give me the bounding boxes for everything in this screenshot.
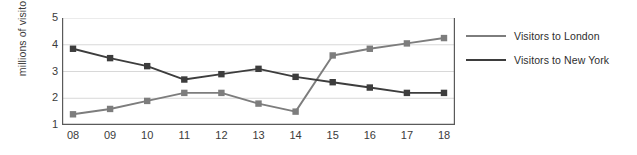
data-point-0-10	[144, 98, 150, 104]
data-point-0-18	[441, 35, 447, 41]
data-point-0-15	[330, 52, 336, 58]
data-point-1-15	[330, 79, 336, 85]
x-tick-label-09: 09	[104, 129, 116, 141]
y-axis-tick-labels: 12345	[40, 18, 58, 125]
x-tick-label-15: 15	[327, 129, 339, 141]
y-tick-label-1: 1	[42, 118, 58, 130]
data-point-0-17	[404, 40, 410, 46]
y-tick-label-5: 5	[42, 11, 58, 23]
data-point-0-13	[255, 100, 261, 106]
y-tick-label-4: 4	[42, 38, 58, 50]
data-point-1-14	[292, 74, 298, 80]
plot-area	[62, 18, 455, 125]
legend-swatch-london	[466, 35, 506, 37]
data-point-1-09	[107, 55, 113, 61]
data-point-1-10	[144, 63, 150, 69]
data-point-1-11	[181, 76, 187, 82]
data-point-1-13	[255, 66, 261, 72]
data-point-0-09	[107, 106, 113, 112]
x-tick-label-12: 12	[215, 129, 227, 141]
data-point-1-17	[404, 90, 410, 96]
y-tick-label-2: 2	[42, 91, 58, 103]
legend-item-london[interactable]: Visitors to London	[466, 26, 609, 46]
data-point-1-16	[367, 84, 373, 90]
x-tick-label-08: 08	[67, 129, 79, 141]
y-tick-label-3: 3	[42, 65, 58, 77]
legend-label-london: Visitors to London	[514, 30, 600, 42]
x-tick-label-10: 10	[141, 129, 153, 141]
legend-item-new-york[interactable]: Visitors to New York	[466, 50, 609, 70]
data-point-1-12	[218, 71, 224, 77]
plot-svg	[62, 18, 455, 125]
x-tick-label-18: 18	[438, 129, 450, 141]
line-chart-figure: millions of visitors 12345 0809101112131…	[0, 0, 637, 155]
x-tick-label-16: 16	[364, 129, 376, 141]
data-point-0-14	[292, 108, 298, 114]
y-axis-title: millions of visitors	[16, 0, 28, 82]
x-axis-tick-labels: 0809101112131415161718	[62, 129, 455, 149]
data-point-0-11	[181, 90, 187, 96]
x-tick-label-13: 13	[252, 129, 264, 141]
chart-legend: Visitors to London Visitors to New York	[466, 26, 609, 74]
data-point-1-18	[441, 90, 447, 96]
legend-label-new-york: Visitors to New York	[514, 54, 609, 66]
data-point-0-12	[218, 90, 224, 96]
data-point-0-16	[367, 46, 373, 52]
legend-swatch-new-york	[466, 59, 506, 61]
x-tick-label-11: 11	[179, 129, 190, 141]
x-tick-label-17: 17	[401, 129, 413, 141]
x-tick-label-14: 14	[289, 129, 301, 141]
data-point-0-08	[70, 111, 76, 117]
data-point-1-08	[70, 46, 76, 52]
